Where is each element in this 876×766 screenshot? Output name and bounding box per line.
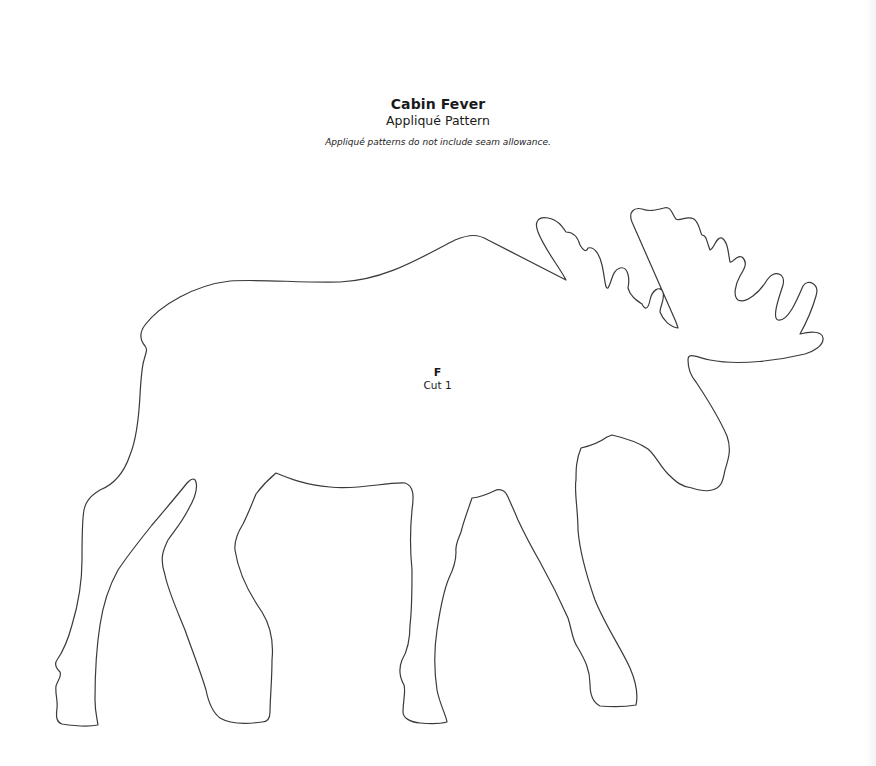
moose-outline: [56, 208, 824, 726]
cut-instruction: Cut 1: [400, 379, 475, 391]
piece-letter: F: [400, 367, 475, 379]
pattern-piece-label: F Cut 1: [400, 367, 475, 391]
